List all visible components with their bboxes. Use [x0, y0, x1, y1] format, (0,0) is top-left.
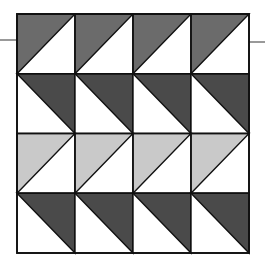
quilt-svg — [0, 0, 265, 267]
quilt-diagram — [0, 0, 265, 267]
